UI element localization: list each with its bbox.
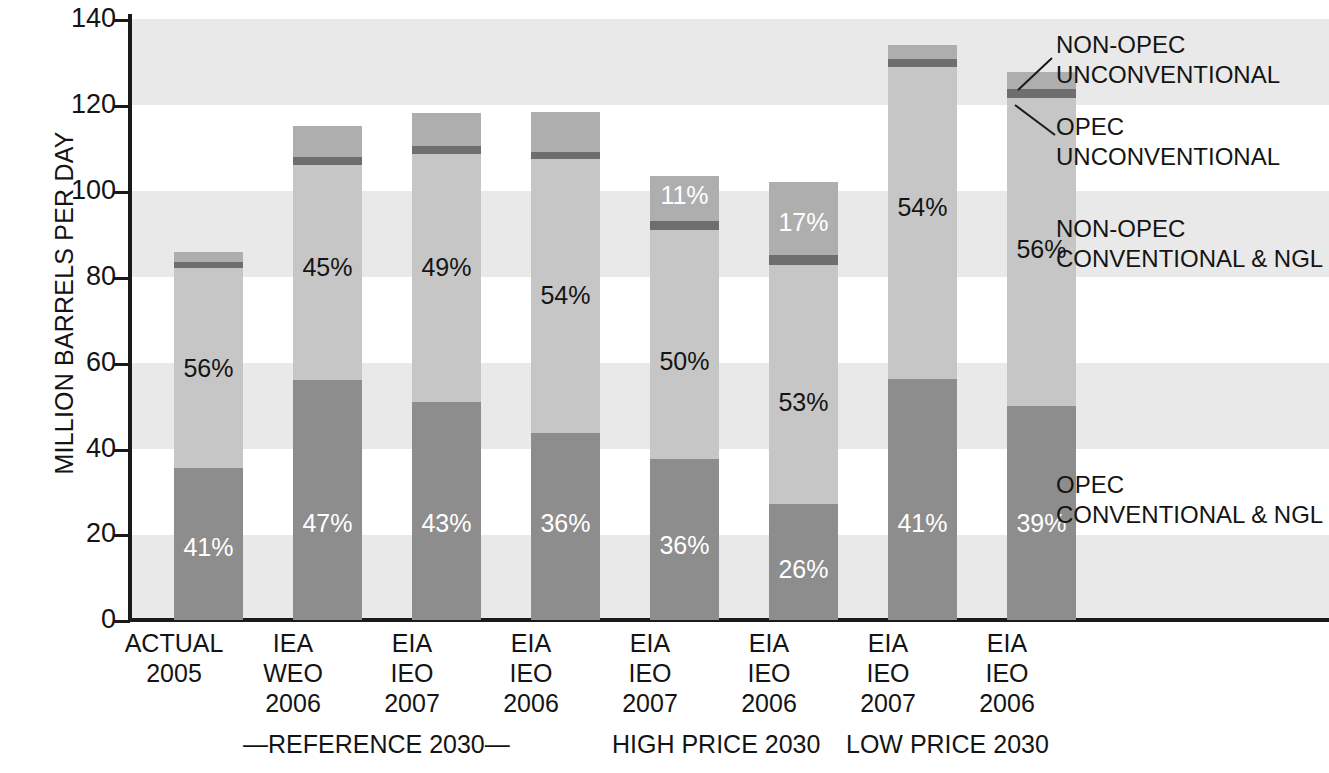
y-tick-label: 80 [36,263,116,290]
segment-nonopec-conventional [174,268,243,468]
x-label-eia-ieo-2007-ref: EIA IEO 2007 [347,628,477,718]
group-label-reference: —REFERENCE 2030— [243,730,510,759]
leader-line-nonopec-unconventional [1018,58,1052,90]
x-label-line1: EIA [823,628,953,658]
bar-eia-ieo-2006-reference[interactable]: 36% 54% [531,112,600,620]
bar-eia-ieo-2007-low-price[interactable]: 41% 54% [888,45,957,620]
segment-opec-unconventional [650,221,719,230]
segment-opec-conventional [412,402,481,620]
x-label-line2: IEO [823,658,953,688]
segment-opec-unconventional [293,157,362,165]
x-label-line1: EIA [347,628,477,658]
x-label-line3: 2006 [466,688,596,718]
y-tick-label: 140 [36,5,116,32]
x-label-line2: 2005 [109,658,239,688]
y-tick-label: 20 [36,520,116,547]
legend-nonopec-conventional: NON-OPEC CONVENTIONAL & NGL [1056,214,1323,274]
x-label-line1: EIA [585,628,715,658]
segment-nonopec-unconventional [888,45,957,59]
y-tick-label: 120 [36,91,116,118]
x-label-line2: IEO [704,658,834,688]
legend-label-line1: NON-OPEC [1056,30,1280,60]
segment-opec-unconventional [531,152,600,159]
x-label-line3: 2006 [704,688,834,718]
x-label-eia-ieo-2007-low: EIA IEO 2007 [823,628,953,718]
x-label-eia-ieo-2006-ref: EIA IEO 2006 [466,628,596,718]
x-label-eia-ieo-2006-high: EIA IEO 2006 [704,628,834,718]
segment-opec-conventional [769,504,838,620]
segment-nonopec-conventional [412,154,481,402]
legend-nonopec-unconventional: NON-OPEC UNCONVENTIONAL [1056,30,1280,90]
legend-opec-conventional: OPEC CONVENTIONAL & NGL [1056,470,1323,530]
x-label-line1: ACTUAL [109,628,239,658]
segment-opec-conventional [888,379,957,620]
x-label-line2: WEO [228,658,358,688]
x-label-line3: 2007 [347,688,477,718]
x-label-line3: 2006 [942,688,1072,718]
x-label-eia-ieo-2007-high: EIA IEO 2007 [585,628,715,718]
segment-opec-conventional [531,433,600,620]
x-label-line2: IEO [466,658,596,688]
legend-label-line1: NON-OPEC [1056,214,1323,244]
bar-eia-ieo-2006-high-price[interactable]: 26% 53% 17% [769,182,838,620]
group-label-low-price: LOW PRICE 2030 [846,730,1049,759]
group-label-high-price: HIGH PRICE 2030 [612,730,820,759]
segment-nonopec-unconventional [650,176,719,221]
bar-eia-ieo-2007-reference[interactable]: 43% 49% [412,113,481,620]
segment-nonopec-conventional [531,159,600,433]
y-tick-label: 40 [36,435,116,462]
x-label-line3: 2007 [585,688,715,718]
bar-actual-2005[interactable]: 41% 56% [174,252,243,620]
segment-nonopec-unconventional [293,126,362,157]
legend-label-line2: CONVENTIONAL & NGL [1056,244,1323,274]
x-label-actual-2005: ACTUAL 2005 [109,628,239,688]
y-tick-label: 100 [36,177,116,204]
legend-label-line1: OPEC [1056,112,1280,142]
x-label-line2: IEO [347,658,477,688]
segment-opec-conventional [174,468,243,620]
segment-nonopec-unconventional [531,112,600,152]
segment-nonopec-unconventional [769,182,838,255]
legend-label-line2: UNCONVENTIONAL [1056,60,1280,90]
segment-opec-unconventional [174,262,243,268]
legend-label-line2: CONVENTIONAL & NGL [1056,500,1323,530]
bar-eia-ieo-2007-high-price[interactable]: 36% 50% 11% [650,176,719,620]
x-label-line1: EIA [942,628,1072,658]
segment-nonopec-conventional [293,165,362,380]
legend-opec-unconventional: OPEC UNCONVENTIONAL [1056,112,1280,172]
x-label-line3: 2007 [823,688,953,718]
legend-label-line2: UNCONVENTIONAL [1056,142,1280,172]
chart-root: MILLION BARRELS PER DAY 140 120 100 80 6… [0,0,1329,773]
segment-nonopec-conventional [769,265,838,504]
segment-nonopec-conventional [650,230,719,459]
legend-label-line1: OPEC [1056,470,1323,500]
segment-nonopec-unconventional [412,113,481,146]
y-tick-label: 60 [36,349,116,376]
x-label-line1: EIA [466,628,596,658]
y-tick-label: 0 [36,606,116,633]
bar-iea-weo-2006[interactable]: 47% 45% [293,126,362,620]
segment-nonopec-unconventional [174,252,243,262]
leader-line-opec-unconventional [1015,105,1055,135]
x-label-line1: IEA [228,628,358,658]
segment-nonopec-conventional [888,67,957,379]
segment-opec-unconventional [888,59,957,67]
segment-opec-conventional [650,459,719,620]
segment-opec-unconventional [412,146,481,154]
x-label-line2: IEO [942,658,1072,688]
x-label-line2: IEO [585,658,715,688]
x-label-iea-weo-2006: IEA WEO 2006 [228,628,358,718]
x-label-line3: 2006 [228,688,358,718]
x-label-line1: EIA [704,628,834,658]
x-label-eia-ieo-2006-low: EIA IEO 2006 [942,628,1072,718]
segment-opec-conventional [293,380,362,620]
segment-opec-unconventional [769,255,838,265]
